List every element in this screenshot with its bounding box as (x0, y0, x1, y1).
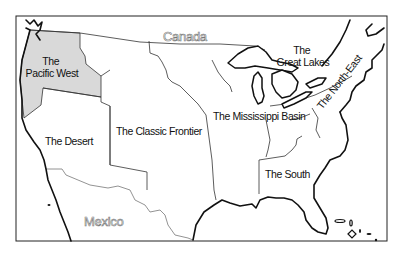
island (48, 204, 51, 206)
island (375, 239, 377, 241)
region-label-mississippi-basin: The Mississippi Basin (213, 110, 306, 122)
country-label-mexico: Mexico (84, 214, 123, 229)
country-label-canada: Canada (163, 29, 208, 44)
region-label-classic-frontier: The Classic Frontier (116, 125, 203, 137)
region-label-south: The South (265, 168, 310, 180)
us-regions-map: Canada Mexico The Pacific West The Deser… (0, 0, 398, 255)
island (367, 233, 372, 235)
region-label-desert: The Desert (45, 135, 93, 147)
island (359, 229, 361, 233)
